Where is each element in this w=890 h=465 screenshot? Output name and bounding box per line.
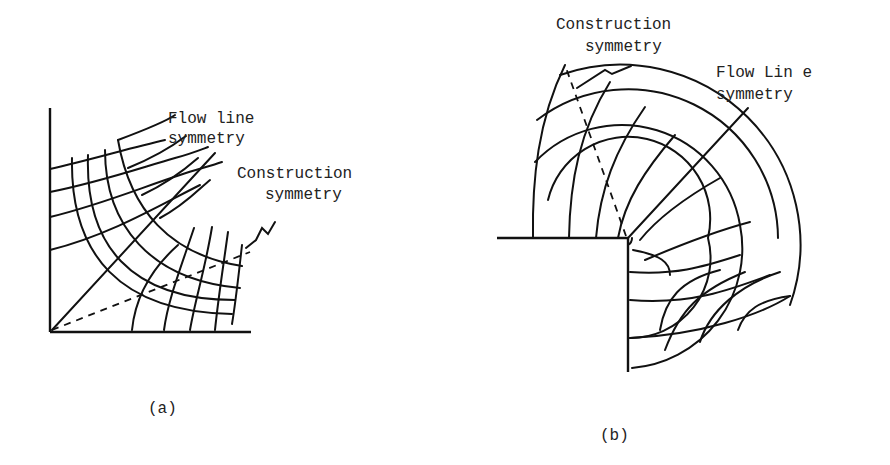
panel-a-leader-arrow bbox=[246, 222, 275, 248]
panel-b-flow-line-label: Flow Lin e bbox=[716, 64, 812, 82]
panel-b-leader-arrow bbox=[577, 66, 631, 88]
panel-b-caption: (b) bbox=[600, 427, 629, 445]
panel-a: Flow line symmetry Construction symmetry… bbox=[50, 108, 352, 418]
panel-a-construction-label: Construction bbox=[237, 165, 352, 183]
panel-b-flow-line-label-2: symmetry bbox=[716, 86, 793, 104]
panel-b-construction-label-2: symmetry bbox=[585, 38, 662, 56]
panel-b-construction-label: Construction bbox=[556, 16, 671, 34]
panel-b: Construction symmetry Flow Lin e symmetr… bbox=[497, 16, 812, 445]
panel-a-flow-line-label: Flow line bbox=[168, 110, 254, 128]
panel-a-flow-line-label-2: symmetry bbox=[168, 130, 245, 148]
panel-b-equipotentials bbox=[533, 65, 790, 350]
flow-net-diagram: Flow line symmetry Construction symmetry… bbox=[0, 0, 890, 465]
panel-b-streamlines bbox=[535, 65, 800, 368]
panel-a-construction-label-2: symmetry bbox=[265, 186, 342, 204]
panel-a-caption: (a) bbox=[148, 400, 177, 418]
